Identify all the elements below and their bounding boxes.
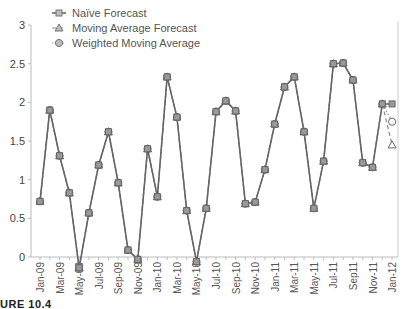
legend-entry: Weighted Moving Average bbox=[72, 37, 200, 49]
y-tick-label: 3 bbox=[19, 19, 25, 31]
y-tick-label: 2.5 bbox=[10, 58, 25, 70]
y-tick-label: 0 bbox=[19, 251, 25, 263]
y-tick-label: 0.5 bbox=[10, 212, 25, 224]
x-tick-label: Nov-11 bbox=[368, 262, 379, 294]
y-tick-label: 2 bbox=[19, 96, 25, 108]
x-tick-label: Mar-11 bbox=[289, 262, 300, 293]
legend-entry: Naïve Forecast bbox=[72, 7, 147, 19]
x-tick-label: Jan-11 bbox=[270, 262, 281, 292]
x-tick-label: Jul-10 bbox=[211, 262, 222, 290]
y-tick-label: 1.5 bbox=[10, 135, 25, 147]
x-tick-label: Sep11 bbox=[348, 262, 359, 291]
legend: Naïve ForecastMoving Average ForecastWei… bbox=[52, 7, 200, 49]
series-weighted-moving-average bbox=[36, 59, 395, 271]
x-tick-label: Sep-10 bbox=[231, 262, 242, 295]
y-axis: 00.511.522.53 bbox=[10, 19, 398, 263]
x-tick-label: May-10 bbox=[191, 262, 202, 296]
figure-caption: URE 10.4 bbox=[0, 298, 52, 309]
series-moving-average-forecast bbox=[36, 59, 396, 271]
line-chart: 00.511.522.53 Jan-09Mar-09May-09Jul-09Se… bbox=[0, 0, 415, 309]
series-layer bbox=[36, 59, 396, 271]
x-tick-label: Jul-11 bbox=[328, 262, 339, 289]
x-tick-label: Jul-09 bbox=[94, 262, 105, 290]
x-tick-label: May-11 bbox=[309, 262, 320, 295]
x-tick-label: Jan-09 bbox=[35, 262, 46, 293]
series-na-ve-forecast bbox=[37, 60, 395, 271]
y-tick-label: 1 bbox=[19, 174, 25, 186]
x-tick-label: Mar-10 bbox=[172, 262, 183, 294]
x-tick-label: Nov-09 bbox=[133, 262, 144, 295]
x-tick-label: Nov-10 bbox=[250, 262, 261, 295]
x-tick-label: Mar-09 bbox=[55, 262, 66, 294]
x-axis: Jan-09Mar-09May-09Jul-09Sep-09Nov-09Jan-… bbox=[31, 257, 398, 295]
x-tick-label: Sep-09 bbox=[113, 262, 124, 295]
legend-entry: Moving Average Forecast bbox=[72, 22, 197, 34]
x-tick-label: Jan-10 bbox=[152, 262, 163, 293]
x-tick-label: Jan-12 bbox=[387, 262, 398, 293]
